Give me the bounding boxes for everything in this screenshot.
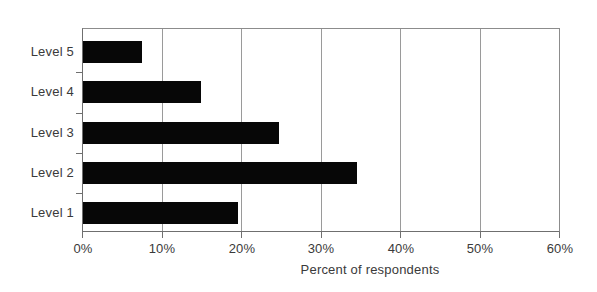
x-axis-tick-label-0: 0% [53,241,113,256]
category-label-level-1: Level 1 [0,206,74,220]
gridline-40 [400,29,401,231]
x-axis-tick-40 [400,232,401,238]
bar-level-4 [83,81,201,103]
x-axis-title: Percent of respondents [270,262,470,277]
bar-chart-figure: Level 5 Level 4 Level 3 Level 2 Level 1 … [0,0,597,292]
y-axis-tick [76,153,82,154]
bar-level-3 [83,122,279,144]
x-axis-tick-label-60: 60% [530,241,590,256]
category-label-level-2: Level 2 [0,166,74,180]
x-axis-tick-30 [321,232,322,238]
x-axis-tick-label-50: 50% [450,241,510,256]
gridline-30 [321,29,322,231]
x-axis-tick-label-40: 40% [371,241,431,256]
y-axis-tick [76,72,82,73]
category-label-level-5: Level 5 [0,45,74,59]
category-label-level-4: Level 4 [0,85,74,99]
x-axis-tick-0 [82,232,83,238]
y-axis-tick [76,113,82,114]
x-axis-tick-10 [162,232,163,238]
y-axis-tick [76,193,82,194]
category-label-level-3: Level 3 [0,126,74,140]
x-axis-tick-label-30: 30% [291,241,351,256]
x-axis-tick-label-10: 10% [132,241,192,256]
x-axis-tick-50 [480,232,481,238]
x-axis-tick-label-20: 20% [212,241,272,256]
bar-level-5 [83,41,142,63]
x-axis-tick-20 [241,232,242,238]
bar-level-1 [83,202,238,224]
plot-area [82,28,560,232]
gridline-50 [480,29,481,231]
bar-level-2 [83,162,357,184]
x-axis-tick-60 [559,232,560,238]
